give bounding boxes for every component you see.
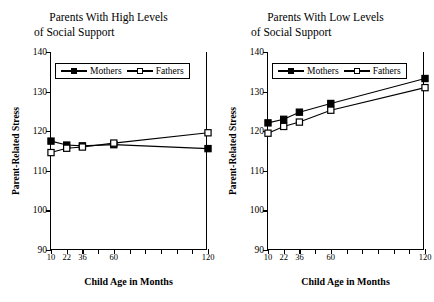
- plot-area-high-support: 9010011012013014010223660120: [50, 52, 207, 250]
- y-axis-tick-label: 140: [250, 47, 264, 57]
- y-axis-tick-label: 110: [33, 166, 47, 176]
- filled-square-icon: [71, 68, 77, 74]
- chart-title-line1: Parents With High Levels: [0, 10, 217, 25]
- legend-item-mothers: Mothers: [61, 66, 122, 76]
- legend-low-support: Mothers Fathers: [272, 63, 407, 79]
- data-point-mothers: [281, 116, 287, 122]
- y-axis-label-text: Parent-Related Stress: [11, 107, 21, 195]
- x-axis-label-low-support: Child Age in Months: [267, 276, 424, 287]
- data-point-mothers: [48, 138, 54, 144]
- y-axis-label-low-support: Parent-Related Stress: [225, 52, 241, 250]
- data-point-mothers: [265, 120, 271, 126]
- y-axis-tick-label: 100: [250, 205, 264, 215]
- data-point-fathers: [281, 123, 287, 129]
- series-line-fathers: [51, 133, 208, 153]
- legend-item-fathers: Fathers: [127, 66, 184, 76]
- y-axis-tick-label: 120: [250, 126, 264, 136]
- y-axis-tick-label: 90: [255, 245, 265, 255]
- data-point-fathers: [48, 149, 54, 155]
- legend-item-fathers: Fathers: [344, 66, 401, 76]
- y-axis-tick-label: 130: [250, 87, 264, 97]
- data-point-fathers: [79, 144, 85, 150]
- legend-line-mothers: [61, 70, 87, 71]
- panel-low-support: Parents With Low Levels of Social Suppor…: [217, 0, 434, 302]
- x-axis-tick-label: 120: [202, 252, 215, 262]
- series-layer: [268, 52, 425, 250]
- data-point-fathers: [205, 130, 211, 136]
- x-axis-tick-label: 22: [279, 252, 288, 262]
- chart-title-low-support: Parents With Low Levels of Social Suppor…: [217, 10, 434, 40]
- series-layer: [51, 52, 208, 250]
- data-point-mothers: [296, 109, 302, 115]
- x-axis-tick-label: 36: [295, 252, 304, 262]
- chart-title-line2: of Social Support: [0, 25, 217, 40]
- data-point-mothers: [328, 100, 334, 106]
- legend-line-mothers: [278, 70, 304, 71]
- legend-label-mothers: Mothers: [90, 66, 122, 76]
- chart-title-high-support: Parents With High Levels of Social Suppo…: [0, 10, 217, 40]
- plot-area-low-support: 9010011012013014010223660120: [267, 52, 424, 250]
- y-axis-tick-label: 120: [33, 126, 47, 136]
- data-point-fathers: [265, 130, 271, 136]
- legend-line-fathers: [127, 70, 153, 71]
- open-square-icon: [354, 68, 360, 74]
- x-axis-tick-label: 10: [264, 252, 273, 262]
- x-axis-tick-label: 36: [78, 252, 87, 262]
- filled-square-icon: [288, 68, 294, 74]
- legend-line-fathers: [344, 70, 370, 71]
- data-point-fathers: [64, 145, 70, 151]
- x-axis-tick-label: 10: [47, 252, 56, 262]
- legend-label-mothers: Mothers: [307, 66, 339, 76]
- y-axis-label-text: Parent-Related Stress: [228, 107, 238, 195]
- x-axis-label-high-support: Child Age in Months: [50, 276, 207, 287]
- open-square-icon: [137, 68, 143, 74]
- series-line-mothers: [268, 79, 425, 123]
- y-axis-tick-label: 130: [33, 87, 47, 97]
- series-line-fathers: [268, 88, 425, 134]
- data-point-fathers: [422, 85, 428, 91]
- data-point-fathers: [111, 140, 117, 146]
- y-axis-label-high-support: Parent-Related Stress: [8, 52, 24, 250]
- x-axis-tick-label: 22: [62, 252, 71, 262]
- panel-high-support: Parents With High Levels of Social Suppo…: [0, 0, 217, 302]
- chart-title-line1: Parents With Low Levels: [217, 10, 434, 25]
- y-axis-tick-label: 100: [33, 205, 47, 215]
- x-axis-tick-label: 60: [327, 252, 336, 262]
- y-axis-tick-label: 140: [33, 47, 47, 57]
- data-point-fathers: [296, 119, 302, 125]
- data-point-mothers: [422, 75, 428, 81]
- legend-label-fathers: Fathers: [156, 66, 184, 76]
- x-axis-tick-label: 60: [110, 252, 119, 262]
- data-point-fathers: [328, 107, 334, 113]
- y-axis-tick-label: 90: [38, 245, 48, 255]
- legend-item-mothers: Mothers: [278, 66, 339, 76]
- legend-label-fathers: Fathers: [373, 66, 401, 76]
- legend-high-support: Mothers Fathers: [55, 63, 190, 79]
- y-axis-tick-label: 110: [250, 166, 264, 176]
- data-point-mothers: [205, 146, 211, 152]
- chart-title-line2: of Social Support: [217, 25, 434, 40]
- x-axis-tick-label: 120: [419, 252, 432, 262]
